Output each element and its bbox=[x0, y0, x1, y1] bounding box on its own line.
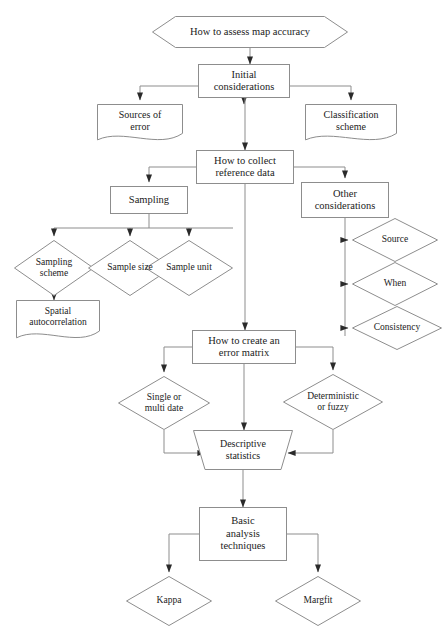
node-label: Sampling scheme bbox=[33, 257, 75, 279]
node-label: Sampling bbox=[126, 194, 172, 206]
node-label: When bbox=[381, 278, 410, 289]
node-label: How to assess map accuracy bbox=[187, 26, 313, 38]
node-sampling: Sampling bbox=[110, 186, 188, 214]
node-classification: Classification scheme bbox=[305, 104, 397, 142]
node-label: Deterministic or fuzzy bbox=[304, 391, 362, 413]
node-start: How to assess map accuracy bbox=[152, 16, 348, 48]
node-single: Single or multi date bbox=[118, 376, 210, 430]
node-label: Consistency bbox=[371, 322, 423, 333]
node-label: Sources of error bbox=[116, 109, 165, 133]
node-label: How to collect reference data bbox=[211, 155, 279, 180]
node-descr: Descriptive statistics bbox=[193, 430, 293, 470]
node-collect: How to collect reference data bbox=[196, 150, 294, 184]
node-basic: Basic analysis techniques bbox=[199, 507, 287, 561]
node-label: Sample size bbox=[104, 262, 156, 273]
node-other: Other considerations bbox=[301, 182, 389, 218]
node-sources: Sources of error bbox=[97, 104, 183, 142]
node-label: Classification scheme bbox=[321, 109, 382, 133]
flowchart-canvas: How to assess map accuracyInitial consid… bbox=[0, 0, 448, 644]
node-margfit: Margfit bbox=[275, 576, 361, 626]
node-spatial: Spatial autocorrelation bbox=[16, 300, 100, 340]
node-determ: Deterministic or fuzzy bbox=[283, 374, 383, 430]
node-label: Source bbox=[379, 234, 411, 245]
node-label: How to create an error matrix bbox=[205, 335, 282, 360]
node-when: When bbox=[352, 262, 438, 306]
node-label: Basic analysis techniques bbox=[218, 515, 269, 552]
node-label: Kappa bbox=[154, 595, 185, 606]
node-label: Margfit bbox=[301, 595, 336, 606]
node-consistency: Consistency bbox=[352, 306, 442, 350]
node-source: Source bbox=[352, 218, 438, 262]
node-label: Other considerations bbox=[312, 188, 379, 213]
node-errmatrix: How to create an error matrix bbox=[192, 330, 296, 364]
node-label: Spatial autocorrelation bbox=[26, 306, 90, 328]
node-initial: Initial considerations bbox=[198, 64, 290, 98]
node-label: Single or multi date bbox=[142, 392, 186, 414]
node-samp-scheme: Sampling scheme bbox=[14, 240, 94, 296]
node-kappa: Kappa bbox=[126, 576, 212, 626]
node-label: Sample unit bbox=[163, 262, 215, 273]
node-samp-unit: Sample unit bbox=[145, 240, 233, 296]
node-label: Initial considerations bbox=[211, 69, 278, 94]
node-label: Descriptive statistics bbox=[217, 438, 269, 462]
